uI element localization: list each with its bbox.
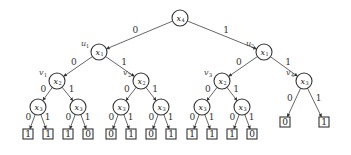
- edge-label: 1: [128, 112, 134, 122]
- node-subscript: 3: [244, 106, 247, 112]
- edge-label: 0: [205, 84, 211, 94]
- edge-label: 0: [148, 112, 154, 122]
- leaf-value: 1: [229, 129, 235, 139]
- terminal-leaf: 0: [280, 117, 290, 127]
- terminal-leaf: 1: [319, 117, 329, 127]
- terminal-leaf: 1: [207, 129, 217, 139]
- node-tag-subscript: 1: [44, 72, 47, 78]
- leaf-value: 0: [249, 129, 255, 139]
- variable-node-a2: x3: [70, 99, 86, 115]
- node-tag-subscript: 1: [86, 43, 89, 49]
- leaf-value: 0: [108, 129, 114, 139]
- edge-root-u1: [106, 21, 172, 49]
- node-subscript: 3: [80, 106, 83, 112]
- terminal-leaf: 0: [146, 129, 156, 139]
- edge-label: 1: [152, 84, 158, 94]
- variable-node-a5: x3: [194, 99, 210, 115]
- node-subscript: 2: [224, 80, 227, 86]
- node-subscript: 3: [163, 106, 166, 112]
- leaf-value: 1: [25, 129, 31, 139]
- node-subscript: 3: [40, 106, 43, 112]
- variable-node-a3: x3: [113, 99, 129, 115]
- leaf-value: 1: [321, 117, 327, 127]
- leaf-value: 0: [148, 129, 154, 139]
- variable-node-u1: x1u1: [81, 39, 107, 60]
- leaf-value: 0: [282, 117, 288, 127]
- edge-label: 1: [168, 112, 174, 122]
- edge-label: 1: [45, 112, 51, 122]
- variable-node-v4: x3v4: [286, 68, 312, 89]
- node-subscript: 3: [123, 106, 126, 112]
- node-subscript: 2: [59, 80, 62, 86]
- leaf-value: 1: [189, 129, 195, 139]
- node-subscript: 4: [182, 17, 185, 23]
- edge-label: 0: [108, 112, 114, 122]
- terminal-leaf: 1: [126, 129, 136, 139]
- edge-label: 1: [69, 84, 75, 94]
- decision-tree-diagram: 01010101010101010101010101 x4x1u1x1u2x2v…: [0, 0, 351, 155]
- node-subscript: 3: [306, 80, 309, 86]
- variable-node-root: x4: [172, 10, 188, 26]
- edge-label: 1: [121, 57, 127, 67]
- edge-label: 0: [287, 93, 293, 103]
- edge-label: 0: [40, 84, 46, 94]
- edge-label: 1: [249, 112, 255, 122]
- leaf-value: 1: [168, 129, 174, 139]
- terminal-leaf: 1: [43, 129, 53, 139]
- leaf-value: 1: [45, 129, 51, 139]
- edge-u2-v3: [229, 57, 258, 77]
- terminal-leaf: 1: [187, 129, 197, 139]
- edge-label: 0: [25, 112, 31, 122]
- edge-label: 0: [236, 57, 242, 67]
- edge-label: 1: [233, 84, 239, 94]
- edge-label: 0: [124, 84, 130, 94]
- edges: 01010101010101010101010101: [25, 21, 321, 129]
- leaf-value: 0: [85, 129, 91, 139]
- node-subscript: 2: [143, 80, 146, 86]
- node-subscript: 1: [101, 51, 104, 57]
- edge-label: 0: [65, 112, 71, 122]
- terminal-leaf: 1: [63, 129, 73, 139]
- leaf-value: 1: [65, 129, 71, 139]
- variable-node-a4: x3: [153, 99, 169, 115]
- edge-label: 0: [71, 57, 77, 67]
- leaf-value: 1: [128, 129, 134, 139]
- node-tag-subscript: 4: [291, 72, 294, 78]
- terminal-leaf: 0: [247, 129, 257, 139]
- edge-label: 1: [285, 57, 291, 67]
- node-tag-subscript: 2: [251, 43, 254, 49]
- edge-label: 0: [189, 112, 195, 122]
- variable-node-a1: x3: [30, 99, 46, 115]
- node-subscript: 3: [204, 106, 207, 112]
- edge-label: 1: [209, 112, 215, 122]
- edge-label: 0: [132, 25, 138, 35]
- node-tag-subscript: 2: [128, 72, 131, 78]
- variable-node-a6: x3: [234, 99, 250, 115]
- edge-label: 0: [229, 112, 235, 122]
- terminal-leaf: 1: [227, 129, 237, 139]
- edge-label: 1: [223, 25, 229, 35]
- edge-label: 1: [316, 93, 322, 103]
- terminal-leaf: 1: [23, 129, 33, 139]
- terminal-leaf: 0: [83, 129, 93, 139]
- edge-u1-v1: [64, 57, 93, 77]
- node-tag-subscript: 3: [209, 72, 212, 78]
- terminal-leaf: 0: [106, 129, 116, 139]
- edge-label: 1: [85, 112, 91, 122]
- leaf-value: 1: [209, 129, 215, 139]
- node-subscript: 1: [266, 51, 269, 57]
- terminal-leaf: 1: [166, 129, 176, 139]
- variable-node-u2: x1u2: [246, 39, 272, 60]
